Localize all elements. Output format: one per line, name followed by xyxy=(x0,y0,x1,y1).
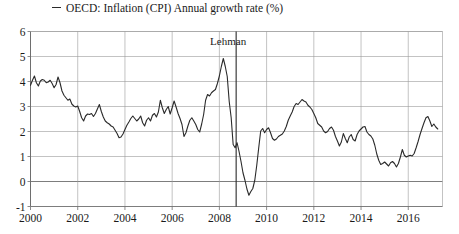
svg-text:1: 1 xyxy=(20,151,26,163)
svg-text:2012: 2012 xyxy=(302,212,325,224)
x-axis-labels: 200020022004200620082010201220142016 xyxy=(19,207,420,224)
lehman-annotation: Lehman xyxy=(210,32,247,207)
svg-text:5: 5 xyxy=(20,51,26,63)
svg-text:2002: 2002 xyxy=(66,212,89,224)
svg-text:2: 2 xyxy=(20,126,26,138)
inflation-line-chart: 6543210-1 200020022004200620082010201220… xyxy=(0,0,459,234)
chart-container: OECD: Inflation (CPI) Annual growth rate… xyxy=(0,0,459,234)
y-axis-labels: 6543210-1 xyxy=(16,26,31,213)
svg-text:4: 4 xyxy=(20,76,26,88)
svg-text:Lehman: Lehman xyxy=(210,35,247,47)
svg-text:2000: 2000 xyxy=(19,212,42,224)
svg-text:2004: 2004 xyxy=(113,212,136,224)
svg-text:2006: 2006 xyxy=(161,212,184,224)
svg-text:2014: 2014 xyxy=(350,212,373,224)
svg-text:6: 6 xyxy=(20,26,26,38)
series-line-oecd-cpi xyxy=(31,59,438,196)
svg-text:0: 0 xyxy=(20,176,26,188)
svg-text:2010: 2010 xyxy=(255,212,278,224)
svg-text:2008: 2008 xyxy=(208,212,231,224)
svg-text:2016: 2016 xyxy=(397,212,420,224)
svg-text:3: 3 xyxy=(20,101,26,113)
